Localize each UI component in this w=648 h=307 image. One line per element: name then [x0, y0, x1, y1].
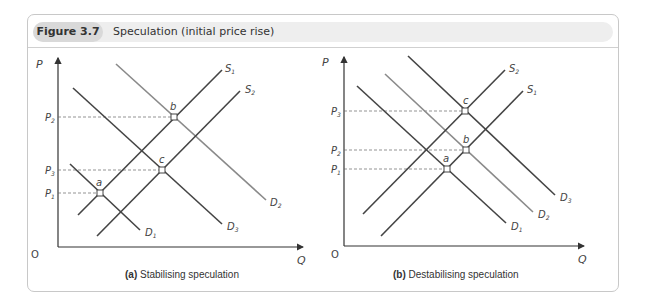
equilibrium-c [462, 108, 468, 114]
price-label-p2: P2 [45, 112, 55, 124]
point-label-b: b [463, 134, 469, 145]
supply-curve-s1 [381, 91, 523, 236]
equilibrium-c [159, 167, 165, 173]
equilibrium-b [463, 147, 469, 153]
origin-label: O [31, 249, 39, 260]
curve-label-s1: S1 [225, 63, 235, 75]
curve-label-s2: S2 [245, 84, 255, 96]
demand-curve-d2 [116, 64, 266, 200]
origin-label: O [331, 249, 339, 260]
x-axis-label: Q [578, 253, 587, 266]
price-label-p1: P1 [331, 164, 341, 176]
price-label-p3: P3 [331, 106, 341, 118]
demand-curve-d3 [408, 56, 555, 195]
point-label-c: c [463, 95, 469, 106]
equilibrium-b [171, 114, 177, 120]
panel-b: P Q O a b c P3 P2 P1 S1 S2 D1 D2 D3 (b) … [322, 56, 587, 280]
panel-b-caption: (b) Destabilising speculation [393, 269, 519, 280]
point-label-c: c [159, 154, 165, 165]
y-axis-label: P [36, 58, 43, 71]
demand-curve-d1 [357, 86, 506, 223]
speculation-charts: P Q O a b c P2 P3 P1 S1 S2 D1 D2 D3 (a) … [0, 0, 648, 307]
curve-label-d1: D1 [511, 221, 523, 233]
x-axis-label: Q [297, 254, 306, 267]
curve-label-d2: D2 [538, 209, 550, 221]
point-label-b: b [170, 101, 176, 112]
price-label-p3: P3 [45, 165, 55, 177]
panel-a: P Q O a b c P2 P3 P1 S1 S2 D1 D2 D3 (a) … [31, 58, 306, 280]
equilibrium-a [444, 166, 450, 172]
curve-label-s2: S2 [509, 63, 519, 75]
point-label-a: a [96, 177, 102, 188]
curve-label-d3: D3 [227, 221, 239, 233]
price-label-p2: P2 [331, 145, 341, 157]
demand-curve-d3 [73, 88, 222, 224]
curve-label-s1: S1 [527, 84, 537, 96]
price-label-p1: P1 [45, 188, 55, 200]
supply-curve-s2 [363, 70, 505, 214]
curve-label-d2: D2 [270, 197, 282, 209]
curve-label-d1: D1 [145, 227, 157, 239]
demand-curve-d1 [70, 164, 140, 230]
point-label-a: a [443, 153, 449, 164]
panel-a-caption: (a) Stabilising speculation [125, 269, 239, 280]
demand-curve-d2 [385, 74, 533, 212]
supply-curve-s2 [97, 91, 240, 236]
equilibrium-a [97, 190, 103, 196]
curve-label-d3: D3 [560, 192, 572, 204]
y-axis-label: P [322, 56, 329, 69]
